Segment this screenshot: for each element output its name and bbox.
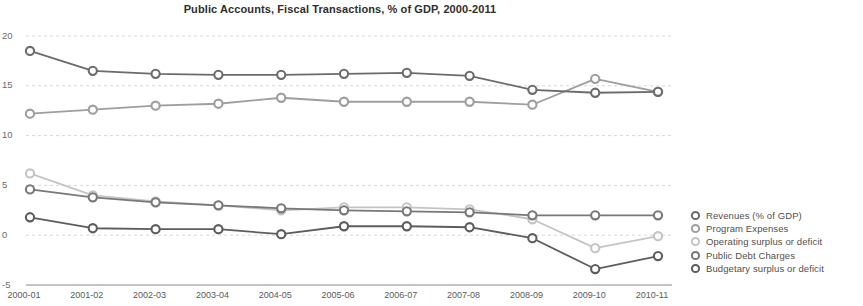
legend-item-label: Program Expenses bbox=[702, 223, 788, 234]
legend-item-label: Revenues (% of GDP) bbox=[702, 210, 802, 221]
data-point-marker bbox=[466, 72, 474, 80]
data-point-marker bbox=[340, 206, 348, 214]
data-point-marker bbox=[591, 244, 599, 252]
data-point-marker bbox=[591, 211, 599, 219]
data-point-marker bbox=[403, 69, 411, 77]
x-tick-label: 2008-09 bbox=[496, 290, 556, 300]
data-point-marker bbox=[26, 110, 34, 118]
legend-item-label: Public Debt Charges bbox=[702, 250, 795, 261]
x-tick-label: 2001-02 bbox=[57, 290, 117, 300]
data-point-marker bbox=[277, 204, 285, 212]
data-point-marker bbox=[654, 88, 662, 96]
data-point-marker bbox=[528, 211, 536, 219]
y-tick-label: 20 bbox=[2, 31, 22, 41]
x-tick-label: 2010-11 bbox=[622, 290, 682, 300]
legend-marker-circle-icon bbox=[688, 250, 702, 261]
data-point-marker bbox=[26, 47, 34, 55]
data-point-marker bbox=[466, 208, 474, 216]
data-point-marker bbox=[403, 222, 411, 230]
legend-marker-circle-icon bbox=[688, 210, 702, 221]
series-line bbox=[30, 79, 658, 114]
data-point-marker bbox=[340, 70, 348, 78]
x-tick-label: 2002-03 bbox=[120, 290, 180, 300]
data-point-marker bbox=[466, 223, 474, 231]
fiscal-transactions-chart: Public Accounts, Fiscal Transactions, % … bbox=[0, 0, 863, 306]
data-point-marker bbox=[214, 201, 222, 209]
data-point-marker bbox=[654, 252, 662, 260]
legend-item-label: Budgetary surplus or deficit bbox=[702, 263, 824, 274]
x-tick-label: 2000-01 bbox=[0, 290, 54, 300]
chart-legend: Revenues (% of GDP)Program ExpensesOpera… bbox=[688, 209, 863, 275]
data-point-marker bbox=[277, 71, 285, 79]
legend-item[interactable]: Revenues (% of GDP) bbox=[688, 209, 863, 222]
data-point-marker bbox=[26, 169, 34, 177]
y-tick-label: 0 bbox=[2, 230, 22, 240]
x-tick-label: 2006-07 bbox=[371, 290, 431, 300]
data-point-marker bbox=[214, 71, 222, 79]
x-tick-label: 2003-04 bbox=[182, 290, 242, 300]
data-point-marker bbox=[528, 86, 536, 94]
legend-marker-circle-icon bbox=[688, 236, 702, 247]
data-point-marker bbox=[528, 234, 536, 242]
y-tick-label: 10 bbox=[2, 130, 22, 140]
x-tick-label: 2004-05 bbox=[245, 290, 305, 300]
data-point-marker bbox=[528, 101, 536, 109]
legend-item[interactable]: Budgetary surplus or deficit bbox=[688, 262, 863, 275]
data-point-marker bbox=[152, 198, 160, 206]
series-1 bbox=[26, 75, 662, 118]
data-point-marker bbox=[152, 225, 160, 233]
data-point-marker bbox=[26, 213, 34, 221]
data-point-marker bbox=[277, 230, 285, 238]
data-point-marker bbox=[466, 98, 474, 106]
data-point-marker bbox=[340, 222, 348, 230]
y-tick-label: 5 bbox=[2, 180, 22, 190]
data-point-marker bbox=[403, 98, 411, 106]
x-tick-label: 2009-10 bbox=[559, 290, 619, 300]
x-tick-label: 2007-08 bbox=[434, 290, 494, 300]
legend-item-label: Operating surplus or deficit bbox=[702, 236, 822, 247]
legend-item[interactable]: Public Debt Charges bbox=[688, 249, 863, 262]
data-point-marker bbox=[277, 94, 285, 102]
legend-item[interactable]: Operating surplus or deficit bbox=[688, 235, 863, 248]
data-point-marker bbox=[591, 265, 599, 273]
data-point-marker bbox=[89, 193, 97, 201]
data-point-marker bbox=[89, 224, 97, 232]
series-4 bbox=[26, 213, 662, 273]
data-point-marker bbox=[403, 207, 411, 215]
data-point-marker bbox=[89, 106, 97, 114]
data-point-marker bbox=[214, 225, 222, 233]
data-point-marker bbox=[654, 211, 662, 219]
data-point-marker bbox=[591, 75, 599, 83]
y-tick-label: 15 bbox=[2, 80, 22, 90]
data-point-marker bbox=[152, 70, 160, 78]
x-tick-label: 2005-06 bbox=[308, 290, 368, 300]
y-tick-label: -5 bbox=[2, 280, 22, 290]
legend-marker-circle-icon bbox=[688, 223, 702, 234]
data-point-marker bbox=[89, 67, 97, 75]
data-point-marker bbox=[654, 232, 662, 240]
data-point-marker bbox=[214, 100, 222, 108]
data-point-marker bbox=[152, 102, 160, 110]
data-point-marker bbox=[340, 98, 348, 106]
legend-item[interactable]: Program Expenses bbox=[688, 222, 863, 235]
legend-marker-circle-icon bbox=[688, 263, 702, 274]
data-point-marker bbox=[26, 185, 34, 193]
series-0 bbox=[26, 47, 662, 97]
data-point-marker bbox=[591, 89, 599, 97]
